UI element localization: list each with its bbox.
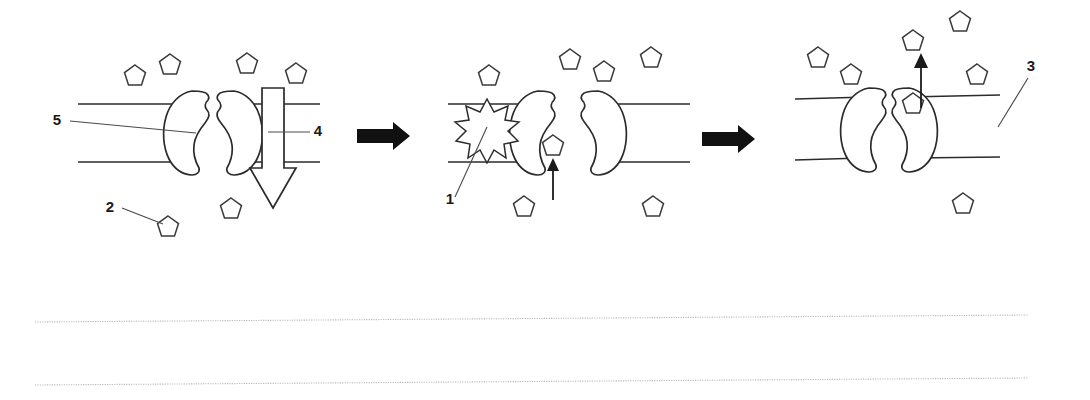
panel-closed-after-transport <box>795 11 1028 213</box>
solute-group-panel3-outside <box>808 11 988 84</box>
label-1: 1 <box>446 190 454 207</box>
stage-arrow-1-icon <box>357 122 410 150</box>
diagram-canvas: 5 4 2 1 3 <box>0 0 1090 400</box>
solute-group-panel3-inside <box>953 193 974 213</box>
ruled-line-2 <box>35 378 1028 385</box>
ruled-line-1 <box>35 315 1028 322</box>
stage-arrow-2-icon <box>702 125 755 153</box>
solute-in-channel <box>543 135 564 155</box>
solute-entry-arrow-icon <box>547 158 559 200</box>
channel-protein-closed-1 <box>164 91 263 175</box>
solute-group-panel2-outside <box>479 47 662 85</box>
label-4: 4 <box>314 122 323 139</box>
leader-line-3 <box>998 78 1028 127</box>
solute-group-panel1-outside <box>125 53 307 85</box>
membrane-transport-diagram: 5 4 2 1 3 <box>0 0 1090 400</box>
solute-group-panel1-inside <box>158 198 242 236</box>
panel-open-channel <box>448 47 690 216</box>
leader-line-2 <box>122 208 163 224</box>
label-3: 3 <box>1027 57 1035 74</box>
channel-protein-open-2 <box>510 91 627 175</box>
label-2: 2 <box>106 198 114 215</box>
label-5: 5 <box>53 111 61 128</box>
solute-group-panel2-inside <box>514 196 664 216</box>
